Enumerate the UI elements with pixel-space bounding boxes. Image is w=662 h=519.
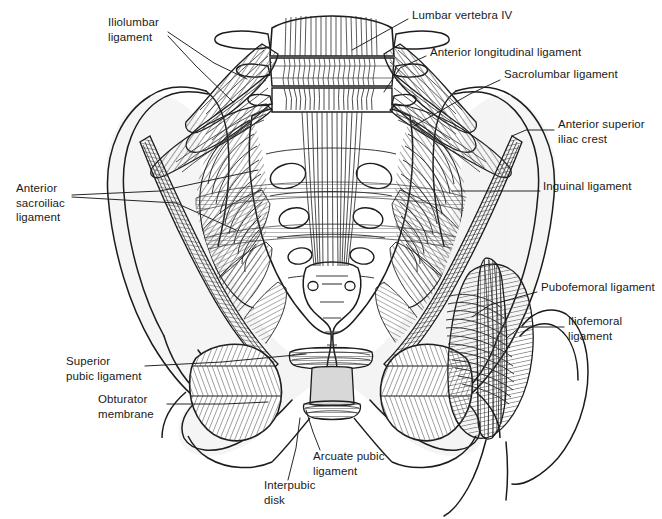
label-inguinal-ligament: Inguinal ligament — [543, 179, 632, 194]
arcuate-pubic-ligament — [303, 401, 360, 420]
label-arcuate-pubic-ligament: Arcuate pubic ligament — [313, 449, 385, 478]
label-superior-pubic-ligament: Superior pubic ligament — [66, 354, 142, 383]
label-pubofemoral-ligament: Pubofemoral ligament — [541, 280, 655, 295]
label-anterior-superior-iliac-crest: Anterior superior iliac crest — [558, 117, 645, 146]
anatomy-figure: Iliolumbar ligament Lumbar vertebra IV A… — [0, 0, 662, 519]
label-iliolumbar-ligament: Iliolumbar ligament — [108, 15, 159, 44]
interpubic-disk — [310, 367, 354, 406]
lumbar-vertebra-bodies — [270, 16, 394, 112]
superior-pubic-ligament — [289, 348, 373, 370]
label-sacrolumbar-ligament: Sacrolumbar ligament — [504, 67, 618, 82]
label-obturator-membrane: Obturator membrane — [98, 392, 154, 421]
label-anterior-sacroiliac-ligament: Anterior sacroiliac ligament — [16, 181, 65, 225]
label-interpubic-disk: Interpubic disk — [264, 478, 316, 507]
label-anterior-longitudinal-ligament: Anterior longitudinal ligament — [430, 45, 581, 60]
label-iliofemoral-ligament: Iliofemoral ligament — [568, 314, 622, 343]
label-lumbar-vertebra-iv: Lumbar vertebra IV — [412, 8, 512, 23]
